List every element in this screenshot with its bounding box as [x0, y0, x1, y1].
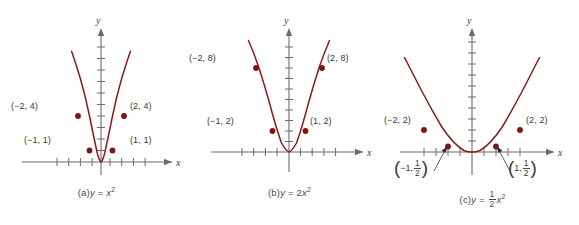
data-point-2-4	[121, 113, 127, 119]
caption-lhs-a: y	[90, 187, 95, 198]
close-paren-pos1: )	[531, 160, 537, 176]
caption-index-a: (a)	[78, 187, 90, 198]
frac-label-x-pos1: 1,	[514, 163, 522, 173]
fraction-one-half-neg1: 1 2	[414, 159, 421, 177]
parabola-comparison-figure: x y (−2, 4) (−1, 1) (1, 1) (2, 4) (a)y =…	[0, 0, 579, 225]
fraction-numerator: 1	[523, 159, 530, 168]
y-axis-label: y	[283, 15, 289, 26]
plot-area-b: x y	[193, 0, 386, 185]
point-label-2-2: (2, 2)	[526, 115, 548, 125]
x-axis-label: x	[175, 157, 181, 168]
x-axis-label: x	[557, 147, 563, 158]
plot-area-a: x y	[0, 0, 193, 185]
caption-fraction-numerator: 1	[489, 190, 496, 199]
caption-equals-a: =	[98, 187, 104, 198]
panel-a: x y (−2, 4) (−1, 1) (1, 1) (2, 4) (a)y =…	[0, 0, 193, 225]
panel-c: x y (−2, 2) (2, 2) ( −1, 1 2 ) ( 1, 1 2 …	[386, 0, 579, 225]
x-axis-arrowhead	[164, 159, 172, 165]
data-point-1-2	[303, 128, 309, 134]
point-label-2-8: (2, 8)	[327, 53, 349, 63]
caption-equals-c: =	[479, 194, 485, 205]
caption-exponent-a: 2	[111, 186, 115, 193]
data-point-neg2-2	[421, 127, 427, 133]
data-point-neg2-8	[253, 65, 259, 71]
panel-caption-c: (c)y = 1 2 x2	[386, 190, 579, 208]
caption-equals-b: =	[288, 187, 294, 198]
y-axis-label: y	[466, 15, 472, 26]
caption-exponent-b: 2	[307, 186, 311, 193]
point-label-1-half: ( 1, 1 2 )	[508, 159, 537, 177]
point-label-2-4: (2, 4)	[130, 101, 152, 111]
point-label-neg2-4: (−2, 4)	[11, 101, 38, 111]
caption-lhs-b: y	[280, 187, 285, 198]
point-label-neg2-2: (−2, 2)	[384, 115, 411, 125]
y-axis-label: y	[95, 15, 101, 26]
caption-exponent-c: 2	[501, 193, 505, 200]
point-label-neg1-2: (−1, 2)	[207, 116, 234, 126]
data-point-neg1-1	[87, 148, 93, 154]
x-axis-arrowhead	[355, 149, 363, 155]
fraction-one-half-pos1: 1 2	[523, 159, 530, 177]
fraction-denominator: 2	[414, 168, 421, 178]
caption-index-c: (c)	[460, 194, 472, 205]
caption-fraction-c: 1 2	[489, 190, 496, 208]
point-label-1-2: (1, 2)	[310, 116, 332, 126]
data-point-1-1	[110, 148, 116, 154]
data-point-2-2	[517, 127, 523, 133]
caption-index-b: (b)	[268, 187, 280, 198]
fraction-denominator: 2	[523, 168, 530, 178]
frac-label-x-neg1: −1,	[400, 163, 413, 173]
panel-caption-b: (b)y = 2x2	[193, 186, 386, 198]
data-point-neg1-2	[270, 128, 276, 134]
y-axis-arrowhead	[98, 28, 104, 36]
caption-fraction-denominator: 2	[489, 199, 496, 209]
y-axis-arrowhead	[469, 28, 475, 36]
y-axis-arrowhead	[286, 28, 292, 36]
point-label-1-1: (1, 1)	[130, 135, 152, 145]
caption-lhs-c: y	[471, 194, 476, 205]
point-label-neg2-8: (−2, 8)	[189, 53, 216, 63]
data-point-neg2-4	[75, 113, 81, 119]
panel-caption-a: (a)y = x2	[0, 186, 193, 198]
x-axis-arrowhead	[546, 149, 554, 155]
point-label-neg1-1: (−1, 1)	[24, 135, 51, 145]
panel-b: x y (−2, 8) (−1, 2) (1, 2) (2, 8) (b)y =…	[193, 0, 386, 225]
graph-svg-b: x y	[193, 0, 386, 185]
x-axis-label: x	[366, 147, 372, 158]
close-paren-neg1: )	[422, 160, 428, 176]
data-point-2-8	[319, 65, 325, 71]
point-label-neg1-half: ( −1, 1 2 )	[394, 159, 428, 177]
fraction-numerator: 1	[414, 159, 421, 168]
graph-svg-a: x y	[0, 0, 193, 185]
